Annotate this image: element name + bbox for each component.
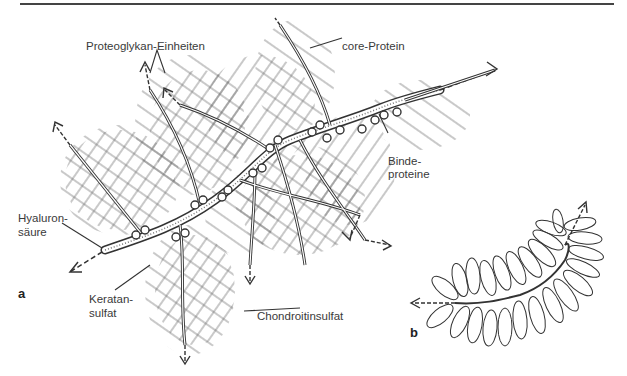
panel-label-b: b (410, 325, 418, 340)
panel-b-proteoglycan (411, 202, 605, 347)
label-proteoglykan-units: Proteoglykan-Einheiten (86, 40, 205, 53)
label-link-proteins-1: Binde- (388, 155, 421, 168)
label-link-proteins-2: proteine (388, 168, 430, 181)
label-core-protein: core-Protein (342, 40, 405, 53)
label-keratan-sulfate-1: Keratan- (89, 293, 133, 306)
label-hyaluronic-acid-1: Hyaluron- (18, 212, 68, 225)
label-chondroitin-sulfate: Chondroitinsulfat (257, 310, 343, 323)
label-hyaluronic-acid-2: säure (18, 226, 47, 239)
label-keratan-sulfate-2: sulfat (89, 307, 117, 320)
panel-label-a: a (18, 286, 25, 301)
